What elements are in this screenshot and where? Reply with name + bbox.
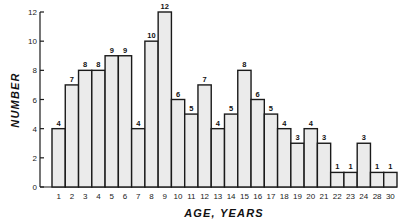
bar [145,41,158,187]
bar-value-label: 4 [136,119,141,128]
y-tick-label: 6 [33,96,38,105]
bar [291,143,304,187]
x-tick-label: 17 [266,192,275,201]
bar [198,85,211,187]
bar [331,172,344,187]
bar [278,129,291,187]
x-tick-label: 23 [346,192,355,201]
x-tick-label: 30 [386,192,395,201]
bar-value-label: 5 [189,104,193,113]
y-tick-label: 0 [33,183,38,192]
y-tick-label: 2 [33,154,38,163]
x-tick-label: 22 [333,192,342,201]
x-tick-label: 2 [70,192,75,201]
bar [211,129,224,187]
bar-value-label: 3 [362,133,366,142]
bar [264,114,277,187]
y-tick-label: 10 [28,37,37,46]
bar [238,70,251,187]
bar [92,70,105,187]
x-tick-label: 15 [240,192,249,201]
x-tick-label: 11 [187,192,196,201]
bar [65,85,78,187]
x-tick-label: 12 [200,192,209,201]
bars: 4788994101265745865434311311 [52,2,397,187]
bar-value-label: 9 [110,46,114,55]
x-tick-label: 3 [83,192,88,201]
bar-value-label: 1 [375,162,379,171]
bar [384,172,397,187]
x-tick-label: 5 [109,192,114,201]
bar-value-label: 6 [176,90,180,99]
x-tick-label: 13 [213,192,222,201]
bar-value-label: 1 [388,162,392,171]
bar [304,129,317,187]
bar-value-label: 3 [295,133,299,142]
x-tick-label: 28 [373,192,382,201]
bar [171,100,184,188]
bar [52,129,65,187]
bar-value-label: 7 [70,75,74,84]
bar-value-label: 4 [282,119,287,128]
bar-value-label: 9 [123,46,127,55]
x-tick-label: 16 [253,192,262,201]
x-tick-label: 14 [227,192,236,201]
bar-chart: 024681012 4788994101265745865434311311 1… [0,0,403,223]
bar-value-label: 1 [348,162,352,171]
bar-value-label: 7 [203,75,207,84]
bar-value-label: 4 [57,119,62,128]
bar-value-label: 4 [216,119,221,128]
bar [225,114,238,187]
bar-value-label: 1 [335,162,339,171]
bar-value-label: 4 [309,119,314,128]
x-tick-label: 6 [123,192,128,201]
bar-value-label: 8 [96,60,100,69]
y-tick-label: 8 [33,66,38,75]
bar-value-label: 6 [256,90,260,99]
x-tick-label: 19 [293,192,302,201]
bar-value-label: 5 [229,104,233,113]
x-tick-label: 4 [96,192,101,201]
x-tick-label: 10 [174,192,183,201]
y-tick-label: 12 [28,8,37,17]
bar-value-label: 8 [83,60,87,69]
x-tick-label: 1 [56,192,61,201]
x-axis-title: AGE, YEARS [183,207,264,219]
bar-value-label: 10 [147,31,155,40]
bar [370,172,383,187]
bar-value-label: 3 [322,133,326,142]
bar [185,114,198,187]
bar [118,56,131,187]
bar [357,143,370,187]
x-tick-label: 8 [149,192,154,201]
bar [132,129,145,187]
bar [251,100,264,188]
x-tick-label: 9 [163,192,168,201]
bar-value-label: 8 [242,60,246,69]
x-axis: 1234567891011121314151617181920212223242… [56,192,395,201]
bar [158,12,171,187]
bar [344,172,357,187]
x-tick-label: 21 [320,192,329,201]
bar-value-label: 5 [269,104,273,113]
bar [105,56,118,187]
bar-value-label: 12 [161,2,169,11]
x-tick-label: 20 [306,192,315,201]
x-tick-label: 18 [280,192,289,201]
bar [79,70,92,187]
bar [317,143,330,187]
x-tick-label: 24 [359,192,368,201]
x-tick-label: 7 [136,192,141,201]
y-axis-title: NUMBER [9,72,21,127]
y-tick-label: 4 [33,125,38,134]
